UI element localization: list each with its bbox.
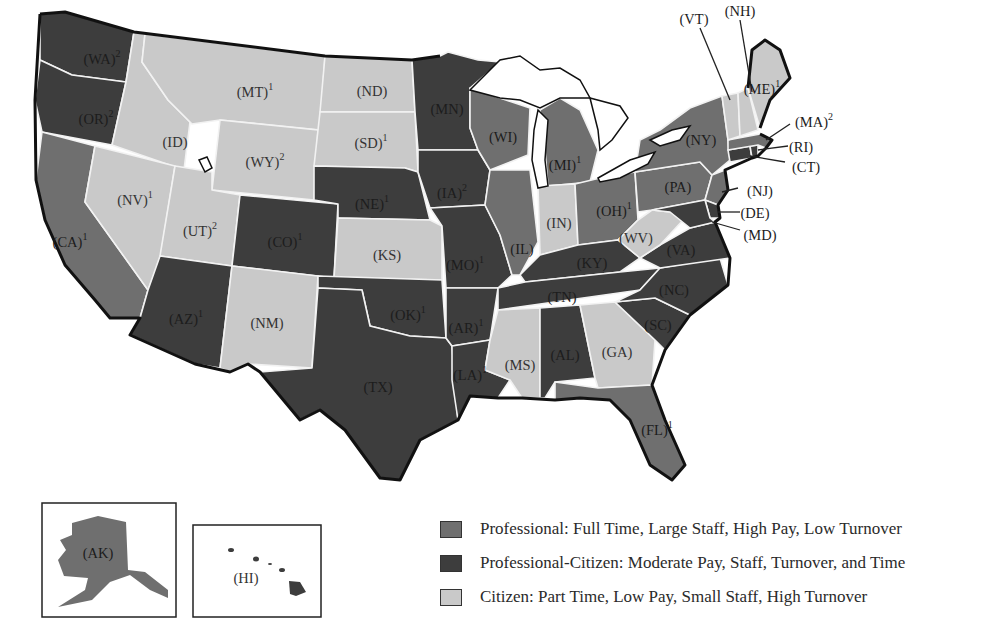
svg-text:(CO)1: (CO)1 bbox=[268, 231, 303, 251]
hawaii-inset: (HI) bbox=[193, 525, 321, 617]
svg-text:(AK): (AK) bbox=[83, 545, 114, 562]
svg-text:(DE): (DE) bbox=[741, 205, 770, 222]
legend-item-professional-citizen: Professional-Citizen: Moderate Pay, Staf… bbox=[440, 546, 905, 580]
svg-text:(RI): (RI) bbox=[789, 139, 813, 156]
svg-text:(PA): (PA) bbox=[665, 179, 692, 196]
svg-text:(AL): (AL) bbox=[551, 347, 580, 364]
svg-text:(VT): (VT) bbox=[680, 11, 709, 28]
alaska-inset: (AK) bbox=[42, 503, 176, 617]
svg-text:(ND): (ND) bbox=[357, 83, 388, 100]
legend-label: Professional-Citizen: Moderate Pay, Staf… bbox=[480, 553, 905, 573]
svg-text:(UT)2: (UT)2 bbox=[183, 220, 217, 240]
svg-text:(VA): (VA) bbox=[667, 242, 696, 259]
svg-text:(NC): (NC) bbox=[659, 282, 689, 299]
svg-text:(WY)2: (WY)2 bbox=[246, 151, 285, 171]
svg-text:(CT): (CT) bbox=[792, 159, 820, 176]
legend-swatch-professional-citizen bbox=[440, 555, 462, 572]
svg-text:(OK)1: (OK)1 bbox=[390, 304, 426, 324]
svg-text:(MA)2: (MA)2 bbox=[795, 111, 833, 131]
legend-label: Professional: Full Time, Large Staff, Hi… bbox=[480, 519, 902, 539]
svg-text:(MO)1: (MO)1 bbox=[446, 254, 484, 274]
svg-text:(NY): (NY) bbox=[686, 132, 717, 149]
svg-text:(AZ)1: (AZ)1 bbox=[169, 308, 203, 328]
legend-label: Citizen: Part Time, Low Pay, Small Staff… bbox=[480, 587, 867, 607]
legend-swatch-citizen bbox=[440, 589, 462, 606]
legend-swatch-professional bbox=[440, 521, 462, 538]
svg-text:(IN): (IN) bbox=[547, 215, 572, 232]
legend: Professional: Full Time, Large Staff, Hi… bbox=[440, 512, 905, 614]
svg-text:(NH): (NH) bbox=[725, 3, 756, 20]
svg-text:(NJ): (NJ) bbox=[747, 183, 773, 200]
svg-text:(CA)1: (CA)1 bbox=[53, 231, 88, 251]
svg-text:(TN): (TN) bbox=[548, 289, 577, 306]
svg-text:(KS): (KS) bbox=[373, 247, 401, 264]
svg-text:(HI): (HI) bbox=[234, 570, 259, 587]
svg-text:(IL): (IL) bbox=[510, 241, 534, 258]
svg-text:(NE)1: (NE)1 bbox=[355, 193, 389, 213]
svg-text:(KY): (KY) bbox=[577, 255, 608, 272]
svg-text:(OH)1: (OH)1 bbox=[596, 200, 632, 220]
legend-item-citizen: Citizen: Part Time, Low Pay, Small Staff… bbox=[440, 580, 905, 614]
svg-text:(WA)2: (WA)2 bbox=[83, 48, 120, 68]
legend-item-professional: Professional: Full Time, Large Staff, Hi… bbox=[440, 512, 905, 546]
svg-text:(SC): (SC) bbox=[644, 317, 672, 334]
svg-text:(NV)1: (NV)1 bbox=[117, 189, 153, 209]
svg-text:(WI): (WI) bbox=[489, 129, 517, 146]
svg-text:(WV): (WV) bbox=[619, 230, 653, 247]
svg-text:(GA): (GA) bbox=[602, 344, 633, 361]
svg-text:(ID): (ID) bbox=[163, 134, 188, 151]
svg-text:(LA)1: (LA)1 bbox=[453, 364, 487, 384]
svg-text:(AR)1: (AR)1 bbox=[449, 317, 484, 337]
svg-text:(MN): (MN) bbox=[430, 101, 463, 118]
svg-text:(TX): (TX) bbox=[364, 379, 393, 396]
svg-text:(MT)1: (MT)1 bbox=[237, 81, 273, 101]
svg-text:(OR)2: (OR)2 bbox=[79, 108, 114, 128]
svg-text:(MD): (MD) bbox=[743, 227, 776, 244]
svg-text:(ME)1: (ME)1 bbox=[744, 78, 780, 98]
svg-text:(NM): (NM) bbox=[250, 315, 283, 332]
svg-text:(MS): (MS) bbox=[505, 357, 536, 374]
